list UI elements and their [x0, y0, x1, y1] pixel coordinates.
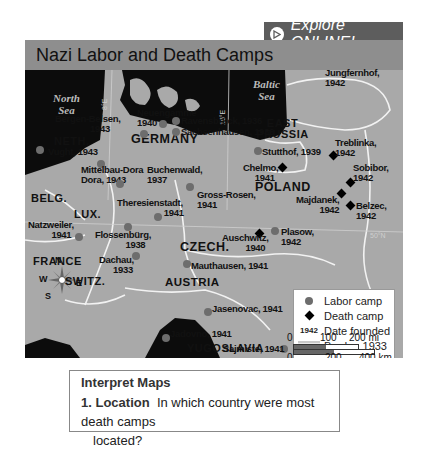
camp-label-auschwitz: Auschwitz, 1940	[222, 233, 269, 253]
svg-text:50°N: 50°N	[370, 232, 386, 239]
camp-label-treblinka: Treblinka,1942	[335, 138, 376, 158]
camp-label-stutthof: Stutthof, 1939	[262, 147, 321, 157]
camp-label-buchenwald: Buchenwald,1937	[147, 165, 202, 185]
svg-text:8°E: 8°E	[101, 98, 108, 110]
labor-camp-marker[interactable]	[162, 334, 170, 342]
country-lux: LUX.	[74, 208, 101, 220]
labor-camp-marker[interactable]	[254, 147, 262, 155]
labor-camp-marker[interactable]	[36, 146, 44, 154]
camp-label-natzweiler: Natzweiler, 1941	[28, 220, 74, 240]
map-figure: Nazi Labor and Death Camps	[25, 40, 403, 358]
camp-label-gross-rosen: Gross-Rosen,1941	[197, 190, 256, 210]
camp-label-jasenovac: Jasenovac, 1941	[212, 304, 283, 314]
camp-label-dachau: Dachau, 1933	[99, 255, 134, 275]
death-camp-icon	[304, 311, 314, 321]
country-austria: AUSTRIA	[165, 276, 220, 288]
labor-camp-marker[interactable]	[140, 130, 148, 138]
camp-label-plasow: Plasow,1942	[281, 227, 314, 247]
camp-label-jungfernhof: Jungfernhof,1942	[325, 68, 379, 88]
svg-text:S: S	[45, 291, 51, 301]
camp-label-majdanek: Majdanek, 1942	[296, 195, 339, 215]
country-belg: BELG.	[31, 192, 67, 204]
country-switz: SWITZ.	[65, 275, 105, 287]
camp-label-ravensbruck: Ravensbrück, 1936	[181, 116, 262, 126]
sea-label-baltic: BalticSea	[253, 78, 280, 102]
camp-label-vught: Vught, 1943	[48, 147, 98, 157]
camp-label-theresienstadt: Theresienstadt, 1941	[117, 198, 184, 218]
camp-label-belzec: Belzec,1942	[356, 201, 387, 221]
country-france: FRANCE	[33, 255, 82, 267]
camp-label-flossenburg: Flossenbürg, 1938	[95, 230, 151, 250]
labor-camp-marker[interactable]	[116, 180, 124, 188]
question-text: 1. Location In which country were most d…	[81, 393, 339, 450]
labor-camp-marker[interactable]	[271, 227, 279, 235]
labor-camp-marker[interactable]	[75, 233, 83, 241]
labor-camp-icon	[305, 297, 313, 305]
camp-label-bergen-belsen: Bergen-Belsen, 1943	[55, 114, 121, 134]
labor-camp-marker[interactable]	[172, 128, 180, 136]
camp-label-jadovno: Jadovno, 1941	[170, 329, 232, 339]
labor-camp-marker[interactable]	[204, 308, 212, 316]
interpret-maps-box: Interpret Maps 1. Location In which coun…	[69, 370, 340, 432]
labor-camp-marker[interactable]	[186, 183, 194, 191]
labor-camp-marker[interactable]	[183, 260, 191, 268]
camp-label-mittelbau-dora: Mittelbau-DoraDora, 1943	[81, 165, 143, 185]
camp-label-sajmiste: Sajmiste, 1941	[223, 344, 284, 354]
map-canvas: 8°E 16°E 50°N N W E S NorthSea BalticSea…	[25, 70, 403, 358]
question-heading: Interpret Maps	[81, 375, 339, 390]
camp-label-chelmo: Chelmo, 1941	[243, 163, 278, 183]
camp-label-sobibor: Sobibor,1942	[353, 163, 389, 183]
map-title-bar: Nazi Labor and Death Camps	[25, 40, 403, 70]
svg-text:W: W	[39, 274, 48, 284]
map-title: Nazi Labor and Death Camps	[36, 45, 273, 66]
camp-label-sachsenhausen: Sachsenhausen, 1936	[181, 127, 274, 137]
labor-camp-marker[interactable]	[172, 117, 180, 125]
camp-label-mauthausen: Mauthausen, 1941	[191, 261, 268, 271]
